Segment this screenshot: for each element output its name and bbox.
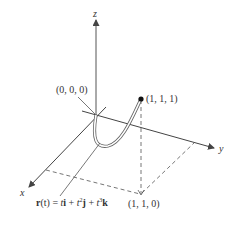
formula-k: k xyxy=(102,197,108,208)
formula-plus2: + xyxy=(86,197,97,208)
curve-formula: r(t) = ti + t2j + t3k xyxy=(36,197,108,208)
diagram-canvas xyxy=(0,0,237,225)
origin-leader-line xyxy=(78,97,95,114)
y-axis xyxy=(82,111,214,148)
endpoint-dot xyxy=(138,96,143,101)
curve-r-of-t xyxy=(95,99,142,146)
projection-point-label: (1, 1, 0) xyxy=(128,198,160,209)
formula-leader-line xyxy=(60,143,100,196)
formula-arg: (t) xyxy=(40,197,49,208)
y-axis-label: y xyxy=(219,143,223,154)
z-axis-label: z xyxy=(93,8,97,19)
endpoint-label: (1, 1, 1) xyxy=(146,93,178,104)
formula-plus1: + xyxy=(66,197,77,208)
projection-dashes xyxy=(46,100,194,194)
formula-eq: = xyxy=(50,197,61,208)
x-axis-label: x xyxy=(20,187,24,198)
space-curve-figure: z y x (0, 0, 0) (1, 1, 1) (1, 1, 0) r(t)… xyxy=(0,0,237,225)
origin-point-label: (0, 0, 0) xyxy=(56,84,88,95)
y-parallel-dash xyxy=(142,143,194,193)
x-parallel-dash xyxy=(46,170,140,194)
